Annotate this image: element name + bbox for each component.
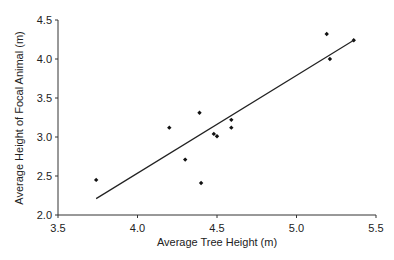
scatter-chart: 3.54.04.55.05.52.02.53.03.54.04.5 Averag…: [0, 0, 394, 260]
x-tick-label: 3.5: [50, 222, 65, 234]
y-tick-label: 3.0: [37, 131, 52, 143]
y-axis-label: Average Height of Focal Animal (m): [13, 31, 25, 204]
y-tick-label: 2.0: [37, 209, 52, 221]
x-tick-label: 5.5: [368, 222, 383, 234]
y-tick-label: 4.0: [37, 53, 52, 65]
data-point-marker: [199, 181, 203, 185]
trendline: [96, 40, 354, 198]
regression-line: [96, 40, 354, 198]
y-tick-label: 3.5: [37, 92, 52, 104]
data-point-marker: [328, 57, 332, 61]
y-tick-label: 4.5: [37, 14, 52, 26]
x-tick-label: 4.0: [130, 222, 145, 234]
data-point-marker: [94, 178, 98, 182]
axes: 3.54.04.55.05.52.02.53.03.54.04.5: [37, 14, 384, 234]
data-point-marker: [197, 111, 201, 115]
x-tick-label: 5.0: [289, 222, 304, 234]
data-point-marker: [167, 125, 171, 129]
data-point-marker: [229, 125, 233, 129]
data-point-marker: [325, 32, 329, 36]
data-point-marker: [229, 118, 233, 122]
data-points: [94, 32, 356, 185]
x-axis-label: Average Tree Height (m): [157, 236, 277, 248]
y-tick-label: 2.5: [37, 170, 52, 182]
data-point-marker: [212, 132, 216, 136]
x-tick-label: 4.5: [209, 222, 224, 234]
data-point-marker: [215, 134, 219, 138]
data-point-marker: [183, 157, 187, 161]
